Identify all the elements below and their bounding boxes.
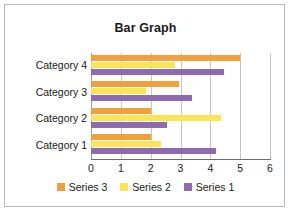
y-axis-label-category-4: Category 4 <box>7 59 87 71</box>
bar <box>91 81 179 87</box>
legend-swatch-icon <box>120 183 128 191</box>
chart-title: Bar Graph <box>5 21 286 35</box>
bar-group <box>91 53 270 80</box>
bar <box>91 69 224 75</box>
bar <box>91 108 151 114</box>
legend-swatch-icon <box>184 183 192 191</box>
x-tick-label-3: 3 <box>178 162 184 174</box>
x-tick-label-2: 2 <box>148 162 154 174</box>
x-tick-label-5: 5 <box>237 162 243 174</box>
gridline-6 <box>270 53 271 159</box>
legend-item-series-2[interactable]: Series 2 <box>120 181 171 193</box>
y-axis-label-category-1: Category 1 <box>7 139 87 151</box>
bar <box>91 88 146 94</box>
legend-label: Series 2 <box>132 181 171 193</box>
bar <box>91 55 240 61</box>
bar-group <box>91 106 270 133</box>
bar-group <box>91 133 270 160</box>
bar <box>91 141 161 147</box>
x-axis-line <box>91 159 271 160</box>
y-axis-category-labels: Category 4Category 3Category 2Category 1 <box>5 53 87 159</box>
x-tick-label-4: 4 <box>207 162 213 174</box>
x-tick-label-1: 1 <box>118 162 124 174</box>
legend-label: Series 3 <box>69 181 108 193</box>
legend-label: Series 1 <box>196 181 235 193</box>
x-tick-label-0: 0 <box>88 162 94 174</box>
bar <box>91 134 151 140</box>
chart-legend: Series 3Series 2Series 1 <box>5 181 286 193</box>
legend-swatch-icon <box>57 183 65 191</box>
x-tick-label-6: 6 <box>267 162 273 174</box>
bar <box>91 115 221 121</box>
chart-frame: Bar Graph Category 4Category 3Category 2… <box>4 4 285 207</box>
bar <box>91 95 192 101</box>
x-axis-tick-labels: 0123456 <box>91 162 270 178</box>
legend-item-series-3[interactable]: Series 3 <box>57 181 108 193</box>
bar-group <box>91 80 270 107</box>
bar <box>91 62 175 68</box>
bar <box>91 148 216 154</box>
y-axis-label-category-2: Category 2 <box>7 112 87 124</box>
bar <box>91 122 167 128</box>
plot-area <box>91 53 270 159</box>
legend-item-series-1[interactable]: Series 1 <box>184 181 235 193</box>
y-axis-label-category-3: Category 3 <box>7 86 87 98</box>
